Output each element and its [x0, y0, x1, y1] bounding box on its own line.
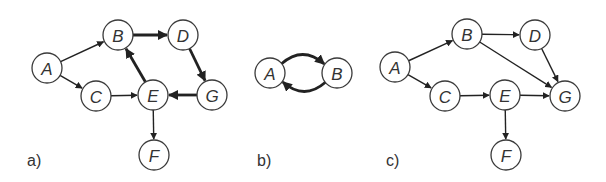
node-B: B [452, 19, 482, 49]
edge-A-to-B [61, 42, 104, 62]
node-F: F [491, 140, 521, 170]
node-G: G [550, 81, 580, 111]
edge-A-to-C [60, 75, 82, 88]
node-label: G [558, 88, 571, 107]
edge-D-to-G [190, 49, 206, 81]
node-E: E [490, 80, 520, 110]
node-D: D [520, 20, 550, 50]
edge-E-to-B [126, 49, 145, 82]
edge-D-to-G [542, 48, 558, 81]
panel-a: ABCDEGFa) [27, 20, 227, 170]
panel-label: b) [257, 152, 271, 169]
panel-c: ABCDEGFc) [380, 19, 580, 170]
node-label: C [90, 88, 103, 107]
node-A: A [32, 53, 62, 83]
node-F: F [139, 140, 169, 170]
node-D: D [168, 20, 198, 50]
node-G: G [197, 80, 227, 110]
node-B: B [103, 20, 133, 50]
panel-label: a) [27, 152, 41, 169]
node-label: A [263, 65, 275, 84]
node-label: D [177, 27, 189, 46]
node-label: C [439, 88, 452, 107]
node-label: B [461, 26, 472, 45]
edge-A-to-B [409, 41, 453, 61]
node-C: C [430, 81, 460, 111]
node-label: G [205, 87, 218, 106]
panel-label: c) [386, 152, 399, 169]
node-C: C [81, 81, 111, 111]
node-label: B [331, 65, 342, 84]
edge-B-to-A [283, 82, 326, 92]
edge-A-to-C [408, 75, 431, 88]
node-E: E [138, 80, 168, 110]
node-label: B [112, 27, 123, 46]
node-label: A [388, 59, 400, 78]
panel-b: ABb) [255, 55, 352, 170]
node-label: D [529, 27, 541, 46]
edge-B-to-D [482, 34, 519, 35]
node-B: B [322, 58, 352, 88]
node-label: F [501, 147, 513, 166]
node-A: A [255, 58, 285, 88]
node-label: F [149, 147, 161, 166]
edge-A-to-B [281, 55, 324, 65]
node-label: A [40, 60, 52, 79]
node-label: E [147, 87, 159, 106]
node-A: A [380, 52, 410, 82]
graph-diagram: ABCDEGFa)ABb)ABCDEGFc) [0, 0, 606, 182]
edges [281, 55, 326, 92]
node-label: E [499, 87, 511, 106]
